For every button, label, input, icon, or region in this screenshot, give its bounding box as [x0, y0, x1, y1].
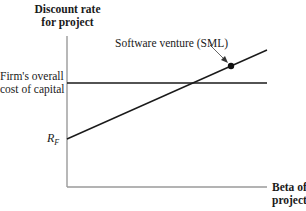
firm-cost-label-line2: cost of capital: [0, 83, 62, 96]
sml-annotation-label: Software venture (SML): [115, 37, 228, 50]
sml-line: [67, 50, 267, 139]
x-axis-title-line1: Beta of: [272, 181, 306, 194]
y-axis-title: Discount rate for project: [20, 3, 115, 29]
software-venture-dot: [228, 63, 234, 69]
firm-cost-label-line1: Firm's overall: [0, 70, 62, 83]
x-axis-title: Beta of project: [272, 181, 306, 207]
rf-sub: F: [54, 138, 59, 147]
chart-canvas: [0, 0, 306, 211]
x-axis-title-line2: project: [272, 194, 306, 207]
firm-cost-label: Firm's overall cost of capital: [0, 70, 62, 96]
y-axis-title-line1: Discount rate: [20, 3, 115, 16]
y-axis-title-line2: for project: [20, 16, 115, 29]
rf-label: RF: [47, 132, 59, 149]
